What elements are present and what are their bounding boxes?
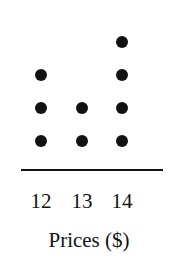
data-dot bbox=[76, 135, 88, 147]
data-dot bbox=[35, 102, 47, 114]
plot-area bbox=[0, 0, 178, 172]
x-tick-label-12: 12 bbox=[21, 188, 61, 214]
data-dot bbox=[35, 135, 47, 147]
x-axis-tick-labels: 12 13 14 bbox=[0, 188, 178, 216]
data-dot bbox=[116, 36, 128, 48]
data-dot bbox=[35, 69, 47, 81]
x-axis-title: Prices ($) bbox=[0, 226, 178, 254]
x-axis-line bbox=[21, 169, 163, 171]
x-tick-label-13: 13 bbox=[62, 188, 102, 214]
data-dot bbox=[76, 102, 88, 114]
data-dot bbox=[116, 135, 128, 147]
data-dot bbox=[116, 69, 128, 81]
data-dot bbox=[116, 102, 128, 114]
dot-plot-figure: 12 13 14 Prices ($) bbox=[0, 0, 178, 260]
x-tick-label-14: 14 bbox=[102, 188, 142, 214]
